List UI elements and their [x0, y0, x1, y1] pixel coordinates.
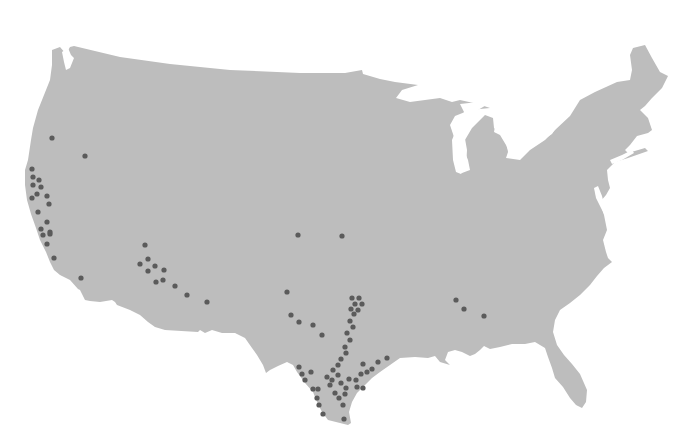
map-marker-dot-icon[interactable] — [347, 337, 352, 342]
map-marker-dot-icon[interactable] — [319, 332, 324, 337]
map-marker-dot-icon[interactable] — [384, 355, 389, 360]
map-marker-dot-icon[interactable] — [332, 390, 337, 395]
map-marker-dot-icon[interactable] — [160, 277, 165, 282]
map-marker-dot-icon[interactable] — [353, 377, 358, 382]
map-marker-dot-icon[interactable] — [49, 135, 54, 140]
map-marker-dot-icon[interactable] — [335, 362, 340, 367]
map-marker-dot-icon[interactable] — [51, 255, 56, 260]
map-marker-dot-icon[interactable] — [308, 369, 313, 374]
map-marker-dot-icon[interactable] — [288, 312, 293, 317]
map-marker-dot-icon[interactable] — [29, 166, 34, 171]
map-marker-dot-icon[interactable] — [352, 301, 357, 306]
map-marker-dot-icon[interactable] — [356, 295, 361, 300]
map-marker-dot-icon[interactable] — [315, 386, 320, 391]
map-marker-dot-icon[interactable] — [296, 364, 301, 369]
map-marker-dot-icon[interactable] — [46, 201, 51, 206]
map-marker-dot-icon[interactable] — [342, 391, 347, 396]
map-marker-dot-icon[interactable] — [152, 263, 157, 268]
map-marker-dot-icon[interactable] — [40, 232, 45, 237]
map-marker-dot-icon[interactable] — [82, 153, 87, 158]
map-marker-dot-icon[interactable] — [184, 292, 189, 297]
map-marker-dot-icon[interactable] — [320, 411, 325, 416]
map-marker-dot-icon[interactable] — [137, 261, 142, 266]
map-marker-dot-icon[interactable] — [324, 374, 329, 379]
map-marker-dot-icon[interactable] — [296, 319, 301, 324]
map-marker-dot-icon[interactable] — [30, 182, 35, 187]
map-marker-dot-icon[interactable] — [343, 350, 348, 355]
map-marker-dot-icon[interactable] — [360, 361, 365, 366]
map-marker-dot-icon[interactable] — [350, 324, 355, 329]
map-marker-dot-icon[interactable] — [310, 386, 315, 391]
map-marker-dot-icon[interactable] — [172, 283, 177, 288]
map-marker-dot-icon[interactable] — [351, 311, 356, 316]
map-marker-dot-icon[interactable] — [142, 242, 147, 247]
map-marker-dot-icon[interactable] — [364, 369, 369, 374]
map-marker-dot-icon[interactable] — [338, 380, 343, 385]
map-marker-dot-icon[interactable] — [375, 359, 380, 364]
map-marker-dot-icon[interactable] — [35, 209, 40, 214]
map-marker-dot-icon[interactable] — [302, 377, 307, 382]
map-marker-dot-icon[interactable] — [161, 267, 166, 272]
map-marker-dot-icon[interactable] — [316, 402, 321, 407]
map-marker-dot-icon[interactable] — [145, 256, 150, 261]
map-marker-dot-icon[interactable] — [336, 395, 341, 400]
map-marker-dot-icon[interactable] — [369, 366, 374, 371]
map-marker-dot-icon[interactable] — [453, 297, 458, 302]
map-marker-dot-icon[interactable] — [354, 384, 359, 389]
map-marker-dot-icon[interactable] — [349, 295, 354, 300]
map-marker-dot-icon[interactable] — [347, 318, 352, 323]
map-marker-dot-icon[interactable] — [153, 279, 158, 284]
map-marker-dot-icon[interactable] — [359, 301, 364, 306]
map-container — [0, 0, 690, 443]
map-marker-dot-icon[interactable] — [343, 385, 348, 390]
map-marker-dot-icon[interactable] — [36, 177, 41, 182]
map-marker-dot-icon[interactable] — [29, 195, 34, 200]
map-marker-dot-icon[interactable] — [335, 372, 340, 377]
map-marker-dot-icon[interactable] — [44, 241, 49, 246]
map-marker-dot-icon[interactable] — [47, 231, 52, 236]
map-marker-dot-icon[interactable] — [330, 367, 335, 372]
map-marker-dot-icon[interactable] — [339, 233, 344, 238]
map-marker-dot-icon[interactable] — [355, 307, 360, 312]
map-marker-dot-icon[interactable] — [30, 174, 35, 179]
map-marker-dot-icon[interactable] — [329, 377, 334, 382]
us-landmass — [25, 45, 668, 425]
us-map[interactable] — [0, 0, 690, 443]
map-marker-dot-icon[interactable] — [284, 289, 289, 294]
map-marker-dot-icon[interactable] — [338, 356, 343, 361]
map-marker-dot-icon[interactable] — [344, 330, 349, 335]
map-marker-dot-icon[interactable] — [299, 371, 304, 376]
map-marker-dot-icon[interactable] — [341, 416, 346, 421]
map-marker-dot-icon[interactable] — [360, 385, 365, 390]
map-marker-dot-icon[interactable] — [44, 193, 49, 198]
map-marker-dot-icon[interactable] — [295, 232, 300, 237]
map-marker-dot-icon[interactable] — [44, 219, 49, 224]
map-marker-dot-icon[interactable] — [38, 184, 43, 189]
map-marker-dot-icon[interactable] — [38, 226, 43, 231]
map-marker-dot-icon[interactable] — [346, 376, 351, 381]
map-marker-dot-icon[interactable] — [204, 299, 209, 304]
map-marker-dot-icon[interactable] — [461, 306, 466, 311]
map-marker-dot-icon[interactable] — [342, 344, 347, 349]
map-marker-dot-icon[interactable] — [340, 402, 345, 407]
map-marker-dot-icon[interactable] — [314, 395, 319, 400]
map-marker-dot-icon[interactable] — [34, 191, 39, 196]
map-marker-dot-icon[interactable] — [348, 306, 353, 311]
map-marker-dot-icon[interactable] — [145, 268, 150, 273]
map-marker-dot-icon[interactable] — [310, 322, 315, 327]
map-marker-dot-icon[interactable] — [481, 313, 486, 318]
map-marker-dot-icon[interactable] — [78, 275, 83, 280]
map-marker-dot-icon[interactable] — [358, 371, 363, 376]
map-marker-dot-icon[interactable] — [327, 382, 332, 387]
